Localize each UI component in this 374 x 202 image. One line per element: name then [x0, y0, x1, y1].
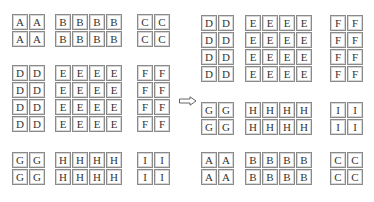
cell-f: F [330, 49, 346, 65]
left-block-f: FFFFFFFF [137, 65, 170, 132]
cell-f: F [154, 99, 170, 115]
cell-e: E [106, 99, 122, 115]
left-block-a: AAAA [12, 14, 45, 47]
cell-e: E [89, 116, 105, 132]
cell-e: E [245, 66, 261, 82]
right-block-b: BBBBBBBB [245, 152, 312, 185]
cell-i: I [330, 102, 346, 118]
cell-f: F [154, 65, 170, 81]
cell-e: E [262, 66, 278, 82]
cell-h: H [72, 169, 88, 185]
cell-i: I [154, 152, 170, 168]
cell-g: G [201, 119, 217, 135]
cell-d: D [12, 99, 28, 115]
cell-a: A [12, 14, 28, 30]
cell-d: D [218, 66, 234, 82]
cell-b: B [279, 152, 295, 168]
cell-b: B [279, 169, 295, 185]
cell-c: C [137, 31, 153, 47]
cell-e: E [106, 82, 122, 98]
cell-b: B [262, 152, 278, 168]
cell-i: I [347, 119, 363, 135]
cell-h: H [106, 152, 122, 168]
cell-h: H [89, 152, 105, 168]
cell-c: C [347, 169, 363, 185]
cell-e: E [89, 65, 105, 81]
cell-h: H [296, 102, 312, 118]
cell-a: A [201, 152, 217, 168]
cell-i: I [154, 169, 170, 185]
cell-e: E [72, 82, 88, 98]
cell-b: B [245, 169, 261, 185]
cell-h: H [106, 169, 122, 185]
cell-e: E [72, 99, 88, 115]
cell-i: I [137, 152, 153, 168]
cell-f: F [330, 15, 346, 31]
cell-e: E [72, 116, 88, 132]
cell-b: B [106, 14, 122, 30]
cell-b: B [55, 31, 71, 47]
left-block-c: CCCC [137, 14, 170, 47]
cell-a: A [201, 169, 217, 185]
cell-h: H [279, 102, 295, 118]
cell-e: E [296, 32, 312, 48]
cell-h: H [296, 119, 312, 135]
cell-a: A [29, 31, 45, 47]
cell-e: E [55, 82, 71, 98]
cell-h: H [55, 152, 71, 168]
cell-a: A [218, 152, 234, 168]
right-block-f: FFFFFFFF [330, 15, 363, 82]
left-block-i: IIII [137, 152, 170, 185]
cell-e: E [262, 15, 278, 31]
cell-h: H [89, 169, 105, 185]
cell-a: A [29, 14, 45, 30]
cell-a: A [218, 169, 234, 185]
cell-b: B [296, 169, 312, 185]
cell-d: D [218, 32, 234, 48]
left-block-d: DDDDDDDD [12, 65, 45, 132]
cell-d: D [201, 15, 217, 31]
cell-b: B [55, 14, 71, 30]
cell-f: F [137, 116, 153, 132]
cell-e: E [55, 116, 71, 132]
left-block-g: GGGG [12, 152, 45, 185]
cell-f: F [347, 66, 363, 82]
cell-b: B [106, 31, 122, 47]
cell-g: G [29, 152, 45, 168]
cell-d: D [12, 65, 28, 81]
right-block-d: DDDDDDDD [201, 15, 234, 82]
cell-f: F [154, 82, 170, 98]
cell-g: G [218, 102, 234, 118]
cell-e: E [262, 49, 278, 65]
cell-e: E [89, 99, 105, 115]
cell-e: E [262, 32, 278, 48]
right-block-i: IIII [330, 102, 363, 135]
cell-c: C [347, 152, 363, 168]
left-block-b: BBBBBBBB [55, 14, 122, 47]
cell-e: E [296, 49, 312, 65]
cell-e: E [55, 65, 71, 81]
cell-b: B [72, 31, 88, 47]
cell-f: F [154, 116, 170, 132]
cell-e: E [245, 49, 261, 65]
cell-d: D [29, 99, 45, 115]
cell-e: E [72, 65, 88, 81]
cell-c: C [330, 152, 346, 168]
cell-g: G [12, 169, 28, 185]
cell-e: E [89, 82, 105, 98]
cell-h: H [262, 102, 278, 118]
cell-e: E [245, 32, 261, 48]
right-block-c: CCCC [330, 152, 363, 185]
right-arrow-icon [179, 96, 197, 106]
cell-b: B [89, 14, 105, 30]
right-block-h: HHHHHHHH [245, 102, 312, 135]
right-block-g: GGGG [201, 102, 234, 135]
cell-f: F [347, 32, 363, 48]
cell-g: G [218, 119, 234, 135]
cell-c: C [137, 14, 153, 30]
cell-c: C [154, 14, 170, 30]
cell-d: D [29, 116, 45, 132]
cell-d: D [29, 65, 45, 81]
cell-d: D [218, 49, 234, 65]
cell-c: C [330, 169, 346, 185]
